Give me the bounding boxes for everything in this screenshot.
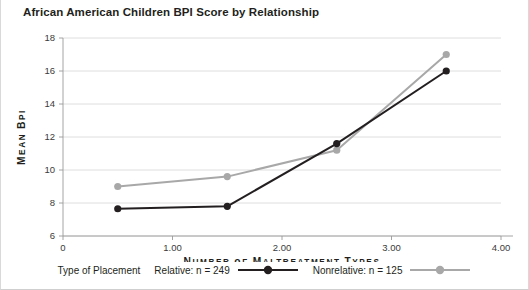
x-axis-tick-label: 3.00 — [382, 242, 401, 253]
data-point-relative — [443, 67, 450, 74]
y-axis-tick-label: 10 — [44, 164, 55, 175]
data-point-relative — [224, 203, 231, 210]
data-series-layer — [114, 51, 450, 212]
chart-figure: African American Children BPI Score by R… — [0, 0, 529, 290]
y-axis-tick-label: 16 — [44, 65, 55, 76]
series-line-nonrelative — [118, 55, 447, 187]
legend-label-nonrelative: Nonrelative: n = 125 — [313, 265, 403, 276]
chart-legend: Type of Placement Relative: n = 249 Nonr… — [1, 264, 528, 276]
x-axis-tick-label: 2.00 — [273, 242, 292, 253]
plot-area: 681012141618 01.002.003.004.00 NUMBER oF… — [1, 0, 529, 262]
series-line-relative — [118, 71, 447, 209]
y-axis-title: MEAN BPI — [16, 109, 27, 165]
y-axis-tick-label: 14 — [44, 98, 55, 109]
legend-label-relative: Relative: n = 249 — [154, 265, 229, 276]
legend-entry-nonrelative[interactable]: Nonrelative: n = 125 — [313, 264, 472, 276]
y-axis-tick-label: 12 — [44, 131, 55, 142]
x-axis-title: NUMBER oF MALTREATMENT TYPES — [183, 256, 380, 262]
data-point-nonrelative — [443, 51, 450, 58]
data-point-nonrelative — [114, 183, 121, 190]
data-point-nonrelative — [224, 173, 231, 180]
data-point-relative — [333, 140, 340, 147]
y-axis-tick-labels: 681012141618 — [44, 32, 55, 241]
data-point-nonrelative — [333, 147, 340, 154]
y-axis-tick-label: 8 — [50, 197, 55, 208]
x-axis-tick-label: 1.00 — [163, 242, 182, 253]
legend-swatch-relative — [237, 264, 299, 276]
y-axis-tick-label: 6 — [50, 230, 55, 241]
x-axis-tick-label: 0 — [60, 242, 65, 253]
x-axis-tick-labels: 01.002.003.004.00 — [60, 242, 510, 253]
y-axis-tick-label: 18 — [44, 32, 55, 43]
gridlines — [63, 38, 501, 236]
x-axis-tick-label: 4.00 — [492, 242, 511, 253]
axis-titles: NUMBER oF MALTREATMENT TYPESMEAN BPI — [16, 109, 381, 262]
legend-entry-relative[interactable]: Relative: n = 249 — [154, 264, 298, 276]
data-point-relative — [114, 205, 121, 212]
legend-title: Type of Placement — [58, 265, 141, 276]
legend-swatch-nonrelative — [409, 264, 471, 276]
